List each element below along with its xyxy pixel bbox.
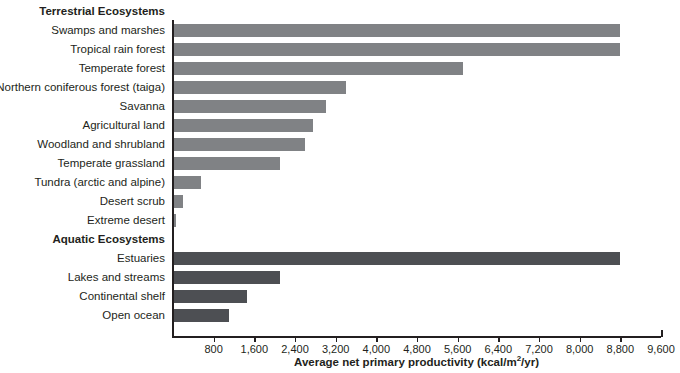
category-label: Woodland and shrubland [37,135,165,154]
x-tick-mark [254,336,255,342]
x-tick-mark [539,336,540,342]
chart-row: Estuaries [0,249,671,268]
bar [173,81,346,94]
x-tick-mark [620,336,621,342]
chart-row: Woodland and shrubland [0,135,671,154]
category-label: Open ocean [102,306,165,325]
x-tick-mark [458,336,459,342]
bar [173,195,183,208]
chart-row: Agricultural land [0,116,671,135]
chart-row: Tropical rain forest [0,40,671,59]
group-header-label: Terrestrial Ecosystems [39,2,165,21]
chart-row: Continental shelf [0,287,671,306]
chart-row: Extreme desert [0,211,671,230]
chart-row: Temperate forest [0,59,671,78]
chart-row: Desert scrub [0,192,671,211]
x-axis-title: Average net primary productivity (kcal/m… [172,356,661,368]
category-label: Tundra (arctic and alpine) [34,173,165,192]
chart-row: Swamps and marshes [0,21,671,40]
category-label: Desert scrub [100,192,165,211]
group-header-row: Aquatic Ecosystems [0,230,671,249]
chart-row: Lakes and streams [0,268,671,287]
chart-row: Savanna [0,97,671,116]
x-tick-mark [580,336,581,342]
bar [173,138,305,151]
x-tick-label: 9,600 [631,343,680,355]
bar [173,309,229,322]
x-tick-mark [661,330,663,337]
category-label: Agricultural land [83,116,165,135]
bar [173,176,201,189]
bar [173,252,620,265]
category-label: Lakes and streams [68,268,165,287]
bar [173,157,280,170]
category-label: Tropical rain forest [70,40,165,59]
bar [173,24,620,37]
category-label: Savanna [120,97,165,116]
x-tick-mark [295,336,296,342]
x-tick-mark [336,336,337,342]
bar [173,271,280,284]
x-tick-mark [498,336,499,342]
category-label: Temperate forest [79,59,165,78]
chart-row: Open ocean [0,306,671,325]
category-label: Northern coniferous forest (taiga) [0,78,165,97]
y-axis-line [172,20,174,337]
x-tick-mark [417,336,418,342]
chart-row: Temperate grassland [0,154,671,173]
group-header-label: Aquatic Ecosystems [53,230,166,249]
category-label: Continental shelf [79,287,165,306]
bar [173,62,463,75]
bar [173,100,326,113]
category-label: Temperate grassland [58,154,165,173]
chart-row: Northern coniferous forest (taiga) [0,78,671,97]
bar [173,290,247,303]
x-axis-title-post: /yr) [521,356,539,368]
category-label: Extreme desert [87,211,165,230]
x-tick-mark [376,336,377,342]
x-axis-title-pre: Average net primary productivity (kcal/m [294,356,517,368]
category-label: Estuaries [117,249,165,268]
bar [173,43,620,56]
group-header-row: Terrestrial Ecosystems [0,2,671,21]
bar [173,119,313,132]
chart-row: Tundra (arctic and alpine) [0,173,671,192]
category-label: Swamps and marshes [51,21,165,40]
x-tick-mark [214,336,215,342]
